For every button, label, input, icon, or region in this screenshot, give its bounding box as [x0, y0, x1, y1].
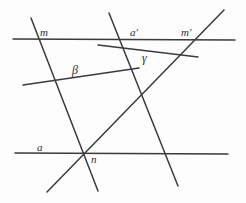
label-m-prime: m′: [181, 27, 191, 38]
label-a-prime: a′: [130, 27, 138, 38]
line-gamma: [98, 45, 198, 57]
label-gamma: γ: [142, 52, 147, 64]
horizontal-line-upper: [13, 39, 235, 40]
line-m: [31, 18, 98, 191]
label-m: m: [40, 27, 48, 38]
geometry-figure: ma′m′γβan: [0, 0, 246, 203]
label-a: a: [37, 142, 43, 153]
horizontal-line-a: [15, 153, 228, 154]
line-canvas: [0, 0, 246, 203]
line-beta: [23, 68, 139, 85]
label-beta: β: [72, 64, 78, 76]
label-n: n: [91, 154, 97, 165]
